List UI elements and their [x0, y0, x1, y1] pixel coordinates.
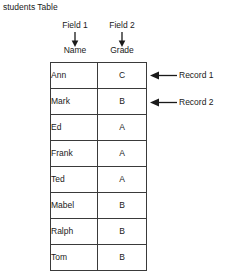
cell-grade: B — [98, 89, 147, 115]
cell-grade: C — [98, 63, 147, 89]
table-row: Ann C — [51, 63, 147, 89]
cell-name: Mark — [51, 89, 98, 115]
cell-grade: A — [98, 115, 147, 141]
field-annotation-2: Field 2 Grade — [92, 20, 152, 56]
cell-name: Ralph — [51, 219, 98, 245]
cell-name: Mabel — [51, 193, 98, 219]
table-row: Mabel B — [51, 193, 147, 219]
arrow-down-icon — [71, 32, 80, 47]
table-row: Ed A — [51, 115, 147, 141]
arrow-left-icon — [150, 70, 177, 81]
cell-name: Tom — [51, 245, 98, 271]
record-annotation-1: Record 1 — [150, 69, 214, 81]
cell-grade: B — [98, 193, 147, 219]
students-table: Ann C Mark B Ed A Frank A Ted A Mabel B … — [50, 62, 147, 271]
table-row: Ralph B — [51, 219, 147, 245]
cell-name: Frank — [51, 141, 98, 167]
table-row: Tom B — [51, 245, 147, 271]
table-row: Frank A — [51, 141, 147, 167]
cell-name: Ed — [51, 115, 98, 141]
cell-name: Ann — [51, 63, 98, 89]
cell-grade: A — [98, 141, 147, 167]
record-2-label: Record 2 — [179, 97, 214, 108]
arrow-left-icon — [150, 97, 177, 108]
table-body: Ann C Mark B Ed A Frank A Ted A Mabel B … — [51, 63, 147, 271]
record-1-label: Record 1 — [179, 70, 214, 81]
table-row: Mark B — [51, 89, 147, 115]
arrow-down-icon — [118, 32, 127, 47]
table-row: Ted A — [51, 167, 147, 193]
cell-grade: B — [98, 245, 147, 271]
cell-grade: B — [98, 219, 147, 245]
table-caption: students Table — [3, 2, 58, 13]
record-annotation-2: Record 2 — [150, 96, 214, 108]
cell-name: Ted — [51, 167, 98, 193]
cell-grade: A — [98, 167, 147, 193]
field-2-label: Field 2 — [92, 20, 152, 31]
